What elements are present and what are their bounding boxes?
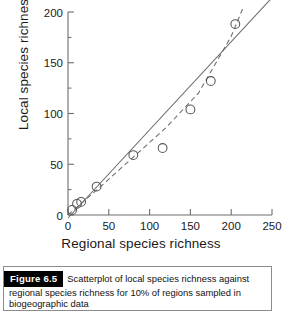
y-axis-title-wrapper: Local species richness: [14, 0, 32, 146]
data-points: [68, 20, 240, 215]
x-axis-title: Regional species richness: [61, 236, 220, 251]
x-tick-label: 50: [102, 220, 115, 232]
y-tick-label: 200: [44, 7, 63, 19]
y-tick-label: 100: [44, 108, 63, 120]
linear-fit-line: [68, 0, 274, 218]
figure-caption-box: Figure 6.5Scatterplot of local species r…: [3, 266, 272, 311]
y-tick-label: 0: [57, 210, 63, 222]
figure-caption: Figure 6.5Scatterplot of local species r…: [4, 267, 271, 310]
x-axis-title-wrapper: Regional species richness: [0, 234, 282, 252]
y-axis-title: Local species richness: [16, 0, 31, 130]
x-tick-label: 250: [262, 220, 281, 232]
caption-line-1: Scatterplot of local species richness ag…: [67, 273, 249, 284]
data-point: [158, 144, 167, 153]
x-axis-major-ticks: [68, 209, 272, 215]
y-tick-label: 150: [44, 57, 63, 69]
x-axis-tick-labels: 0 50 100 150 200 250: [65, 220, 282, 232]
x-tick-label: 200: [222, 220, 241, 232]
data-point: [186, 105, 195, 114]
y-tick-label: 50: [50, 159, 63, 171]
data-point: [129, 151, 138, 160]
y-axis-tick-labels: 0 50 100 150 200: [44, 7, 63, 222]
scatterplot-svg: 0 50 100 150 200 0 50 100 150 200 250: [0, 0, 282, 258]
figure-container: 0 50 100 150 200 0 50 100 150 200 250: [0, 0, 282, 311]
x-tick-label: 0: [65, 220, 71, 232]
x-tick-label: 100: [140, 220, 159, 232]
plot-area: 0 50 100 150 200 0 50 100 150 200 250: [0, 0, 282, 258]
figure-number-badge: Figure 6.5: [4, 271, 63, 287]
x-tick-label: 150: [181, 220, 200, 232]
data-point: [206, 77, 215, 86]
y-axis-major-ticks: [68, 12, 74, 215]
curved-fit-line: [68, 7, 243, 215]
caption-line-2: regional species richness for 10% of reg…: [4, 287, 266, 299]
caption-line-3: biogeographic data: [4, 298, 266, 310]
